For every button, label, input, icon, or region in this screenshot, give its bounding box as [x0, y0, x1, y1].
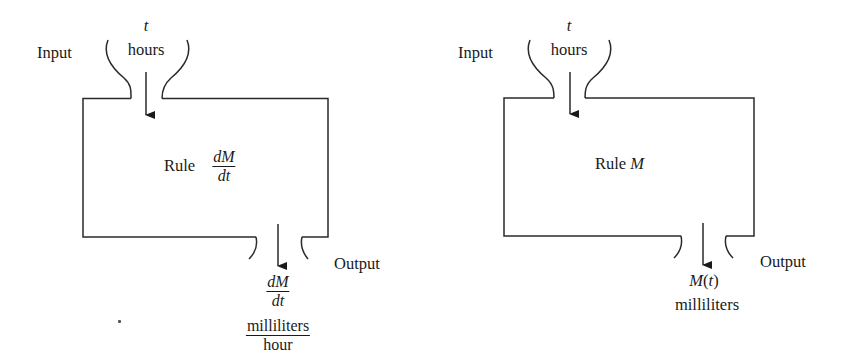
function-machine-output-unit: milliliters — [675, 297, 739, 314]
derivative-machine-box — [83, 99, 328, 238]
rule-prefix: Rule — [595, 154, 626, 173]
derivative-machine-input-variable: t — [144, 18, 149, 35]
function-machine-input-label: Input — [458, 45, 493, 62]
output-value-denominator: dt — [272, 292, 284, 309]
derivative-machine-input-label: Input — [37, 45, 72, 62]
rule-numerator: dM — [212, 149, 235, 167]
function-machine-input-variable: t — [567, 18, 572, 35]
rule-denominator: dt — [218, 167, 230, 184]
function-machine-rule: Rule M — [595, 156, 644, 173]
derivative-machine-rule-prefix: Rule — [164, 158, 195, 175]
derivative-machine-output-unit: milliliters hour — [246, 318, 310, 353]
output-function-name: M — [689, 271, 703, 290]
function-machine-output-label: Output — [760, 254, 806, 271]
output-value-numerator: dM — [266, 274, 289, 292]
stray-speck — [118, 320, 121, 323]
function-machine-output-value: M(t) — [689, 273, 718, 290]
derivative-machine-input-unit: hours — [128, 42, 165, 59]
derivative-machine-output-value: dM dt — [266, 274, 289, 309]
rule-name: M — [630, 154, 644, 173]
function-machine-input-unit: hours — [551, 42, 588, 59]
output-unit-denominator: hour — [263, 336, 292, 353]
derivative-machine-rule-fraction: dM dt — [212, 149, 235, 184]
output-close-paren: ) — [713, 271, 719, 290]
output-unit-numerator: milliliters — [246, 318, 310, 336]
derivative-machine-output-label: Output — [334, 256, 380, 273]
